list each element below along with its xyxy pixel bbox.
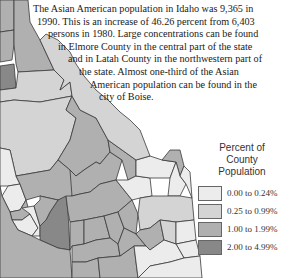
map-legend: Percent of County Population 0.00 to 0.2… xyxy=(207,142,296,256)
description-line: The Asian American population in Idaho w… xyxy=(0,3,296,16)
legend-item: 0.00 to 0.24% xyxy=(198,184,296,202)
description-line: in Elmore County in the central part of … xyxy=(0,41,296,54)
description-line: and in Latah County in the northwestern … xyxy=(0,53,296,66)
legend-item: 1.00 to 1.99% xyxy=(198,220,296,238)
legend-swatch xyxy=(198,204,222,219)
legend-item: 0.25 to 0.99% xyxy=(198,202,296,220)
description-text: The Asian American population in Idaho w… xyxy=(0,3,296,104)
description-line: city of Boise. xyxy=(0,91,296,104)
description-line: 1990. This is an increase of 46.26 perce… xyxy=(0,16,296,29)
description-line: American population can be found in the xyxy=(0,79,296,92)
legend-swatch xyxy=(198,240,222,255)
legend-label: 0.00 to 0.24% xyxy=(227,188,278,198)
legend-title-line: Percent of xyxy=(207,142,277,154)
legend-item: 2.00 to 4.99% xyxy=(198,238,296,256)
legend-label: 2.00 to 4.99% xyxy=(227,242,278,252)
legend-swatch xyxy=(198,222,222,237)
legend-label: 1.00 to 1.99% xyxy=(227,224,278,234)
legend-swatch xyxy=(198,186,222,201)
legend-title: Percent of County Population xyxy=(207,142,277,178)
legend-label: 0.25 to 0.99% xyxy=(227,206,278,216)
description-line: persons in 1980. Large concentrations ca… xyxy=(0,28,296,41)
legend-title-line: Population xyxy=(207,166,277,178)
legend-title-line: County xyxy=(207,154,277,166)
description-line: the state. Almost one-third of the Asian xyxy=(0,66,296,79)
